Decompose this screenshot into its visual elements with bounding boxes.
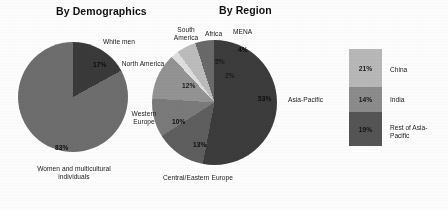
figure-canvas: By Demographics By Region White men 17% … (0, 0, 448, 210)
chart-title-region: By Region (219, 4, 272, 16)
breakdown-value-rest-of-asia-pacific: 19% (349, 125, 382, 132)
pie-label-north-america: North America (121, 60, 165, 68)
asia-pacific-breakdown-bar: 21% 14% 19% (349, 49, 382, 146)
pie-value-mena: 4% (238, 46, 248, 53)
breakdown-label-china: China (390, 66, 407, 74)
pie-value-white-men: 17% (93, 61, 106, 68)
breakdown-label-rest-of-asia-pacific: Rest of Asia-Pacific (390, 124, 442, 141)
pie-label-central-eastern-europe: Central/Eastern Europe (160, 174, 236, 182)
pie-label-western-europe: Western Europe (123, 110, 165, 127)
pie-label-women-multicultural: Women and multicultural individuals (34, 165, 114, 182)
pie-value-central-eastern-europe: 13% (193, 141, 206, 148)
breakdown-value-india: 14% (349, 96, 382, 103)
pie-value-south-america: 2% (225, 72, 235, 79)
pie-value-africa: 5% (215, 58, 225, 65)
pie-value-asia-pacific: 53% (258, 95, 271, 102)
breakdown-label-india: India (390, 96, 404, 104)
breakdown-band-rest-of-asia-pacific: 19% (349, 112, 382, 146)
pie-label-africa: Africa (205, 30, 222, 38)
pie-label-south-america: South America (167, 26, 205, 43)
breakdown-band-india: 14% (349, 87, 382, 112)
breakdown-band-china: 21% (349, 49, 382, 87)
pie-value-north-america: 12% (182, 82, 195, 89)
pie-chart-demographics (18, 42, 128, 152)
pie-value-women-multicultural: 83% (55, 144, 68, 151)
pie-label-asia-pacific: Asia-Pacific (288, 96, 323, 104)
pie-value-western-europe: 10% (172, 118, 185, 125)
pie-label-white-men: White men (103, 38, 135, 46)
chart-title-demographics: By Demographics (56, 5, 147, 17)
pie-label-mena: MENA (233, 28, 252, 36)
breakdown-value-china: 21% (349, 64, 382, 71)
